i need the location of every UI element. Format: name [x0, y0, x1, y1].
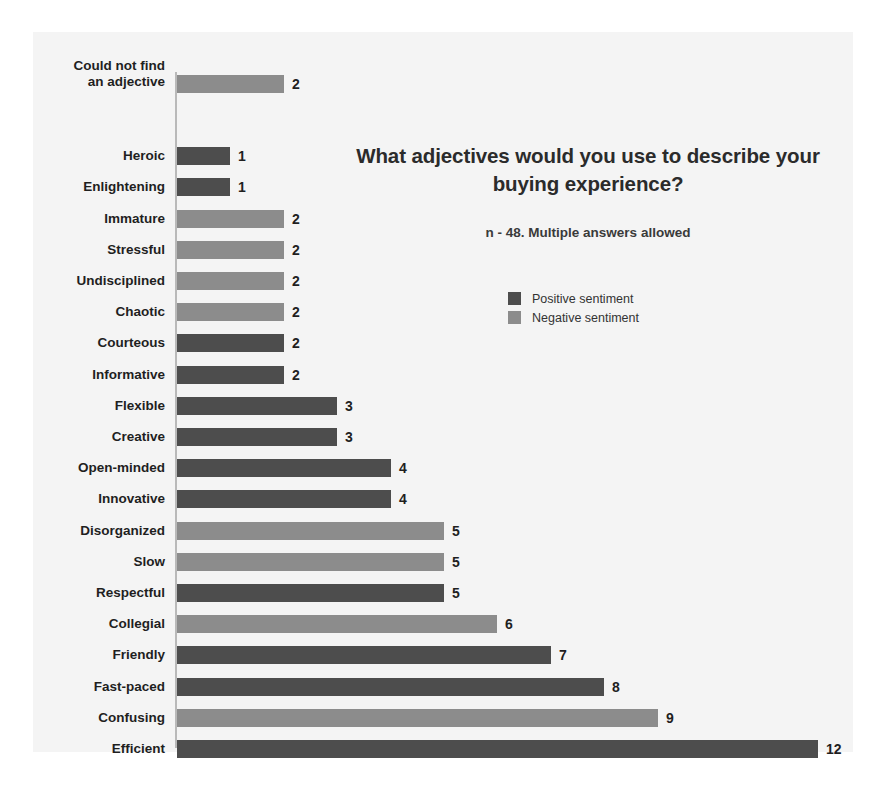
bar-positive [177, 459, 391, 477]
category-label-line: Could not find [33, 58, 165, 74]
bar-positive [177, 740, 818, 758]
category-label: Respectful [33, 585, 165, 601]
bar-negative [177, 553, 444, 571]
category-label: Innovative [33, 491, 165, 507]
bar-negative [177, 615, 497, 633]
category-label: Courteous [33, 335, 165, 351]
category-label: Stressful [33, 242, 165, 258]
category-label: Creative [33, 429, 165, 445]
bar-positive [177, 397, 337, 415]
bar-value-label: 6 [505, 615, 513, 633]
bar-negative [177, 709, 658, 727]
chart-figure: Could not findan adjective2Heroic1Enligh… [0, 0, 896, 792]
bar-value-label: 2 [292, 210, 300, 228]
bar-value-label: 7 [559, 646, 567, 664]
category-label: Undisciplined [33, 273, 165, 289]
chart-legend: Positive sentimentNegative sentiment [508, 289, 639, 327]
bar-positive [177, 334, 284, 352]
legend-label: Negative sentiment [532, 311, 639, 325]
legend-label: Positive sentiment [532, 292, 633, 306]
bar-value-label: 12 [826, 740, 842, 758]
category-label: Flexible [33, 398, 165, 414]
bar-positive [177, 178, 230, 196]
bar-value-label: 9 [666, 709, 674, 727]
bar-value-label: 2 [292, 272, 300, 290]
category-label: Heroic [33, 148, 165, 164]
bar-negative [177, 272, 284, 290]
category-label: Friendly [33, 647, 165, 663]
category-label: Disorganized [33, 523, 165, 539]
bar-value-label: 8 [612, 678, 620, 696]
bar-value-label: 2 [292, 366, 300, 384]
plot-area: Could not findan adjective2Heroic1Enligh… [33, 32, 853, 752]
bar-positive [177, 678, 604, 696]
category-label: Fast-paced [33, 679, 165, 695]
category-label: Efficient [33, 741, 165, 757]
bar-positive [177, 584, 444, 602]
category-label: Immature [33, 211, 165, 227]
bar-positive [177, 147, 230, 165]
bar-value-label: 4 [399, 490, 407, 508]
bar-value-label: 5 [452, 584, 460, 602]
bar-positive [177, 646, 551, 664]
bar-positive [177, 366, 284, 384]
category-label: Chaotic [33, 304, 165, 320]
bar-positive [177, 428, 337, 446]
chart-panel: Could not findan adjective2Heroic1Enligh… [33, 32, 853, 752]
chart-title: What adjectives would you use to describ… [353, 142, 823, 197]
bar-negative [177, 210, 284, 228]
title-block: What adjectives would you use to describ… [353, 142, 823, 240]
bar-value-label: 2 [292, 303, 300, 321]
bar-value-label: 1 [238, 147, 246, 165]
category-label-line: an adjective [33, 74, 165, 90]
legend-item[interactable]: Negative sentiment [508, 308, 639, 327]
bar-negative [177, 241, 284, 259]
legend-item[interactable]: Positive sentiment [508, 289, 639, 308]
category-label: Could not findan adjective [33, 58, 165, 90]
category-label: Confusing [33, 710, 165, 726]
bar-value-label: 2 [292, 75, 300, 93]
bar-negative [177, 522, 444, 540]
category-label: Collegial [33, 616, 165, 632]
legend-swatch-icon [508, 292, 521, 305]
bar-value-label: 5 [452, 553, 460, 571]
bar-negative [177, 303, 284, 321]
bar-value-label: 4 [399, 459, 407, 477]
chart-subtitle: n - 48. Multiple answers allowed [353, 225, 823, 240]
category-label: Enlightening [33, 179, 165, 195]
bar-value-label: 3 [345, 397, 353, 415]
bar-value-label: 2 [292, 334, 300, 352]
bar-value-label: 2 [292, 241, 300, 259]
bar-value-label: 3 [345, 428, 353, 446]
bar-positive [177, 490, 391, 508]
category-label: Open-minded [33, 460, 165, 476]
legend-swatch-icon [508, 311, 521, 324]
bar-negative [177, 75, 284, 93]
bar-value-label: 5 [452, 522, 460, 540]
bar-value-label: 1 [238, 178, 246, 196]
category-label: Informative [33, 367, 165, 383]
category-label: Slow [33, 554, 165, 570]
